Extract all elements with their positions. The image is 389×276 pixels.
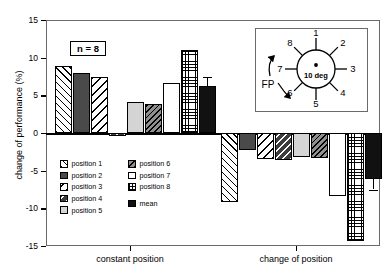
x-tick-mark <box>130 246 131 251</box>
x-tick-label-change-of-position: change of position <box>259 254 332 264</box>
chart-root: 15 10 5 0 -5 -10 -15 change of performan… <box>0 0 389 276</box>
legend-swatch <box>128 172 136 180</box>
legend-label: position 5 <box>72 206 103 215</box>
inset-center-label: 10 deg <box>304 71 328 80</box>
legend-swatch <box>60 172 68 180</box>
inset-circle <box>297 50 335 88</box>
bar-change-of-position-position-7 <box>329 133 346 196</box>
legend-label: position 8 <box>140 182 171 191</box>
legend-column-left: position 1position 2position 3position 4… <box>60 158 102 216</box>
inset-spoke-label-8: 8 <box>287 37 292 48</box>
y-axis-label: change of performance (%) <box>14 40 24 210</box>
bar-constant-position-position-4 <box>109 133 126 136</box>
legend-swatch <box>128 160 136 168</box>
legend-label: position 3 <box>72 182 103 191</box>
inset-spoke-label-3: 3 <box>350 63 355 74</box>
bar-change-of-position-position-5 <box>293 133 310 157</box>
inset-spoke-label-4: 4 <box>340 87 345 98</box>
legend-item-position-6: position 6 <box>128 158 170 170</box>
legend-label: position 4 <box>72 194 103 203</box>
legend-item-mean: mean <box>128 198 170 210</box>
bar-change-of-position-position-6 <box>311 133 328 158</box>
legend-item-position-1: position 1 <box>60 158 102 170</box>
error-bar-stem <box>373 179 374 190</box>
legend-swatch <box>128 183 136 191</box>
legend-label: position 7 <box>140 171 171 180</box>
bar-change-of-position-position-3 <box>257 133 274 159</box>
y-tick-label: -15 <box>26 241 41 251</box>
y-tick-label: 5 <box>33 90 41 100</box>
inset-fixation-dot <box>314 63 318 67</box>
bar-constant-position-position-3 <box>91 77 108 133</box>
legend-swatch <box>60 195 68 203</box>
x-tick-mark <box>296 246 297 251</box>
inset-spoke-label-1: 1 <box>313 29 318 38</box>
bar-constant-position-position-6 <box>145 104 162 133</box>
legend-item-position-2: position 2 <box>60 170 102 182</box>
error-bar-cap <box>369 190 378 191</box>
bar-change-of-position-mean <box>365 133 382 179</box>
legend-item-position-3: position 3 <box>60 181 102 193</box>
bar-constant-position-position-8 <box>181 50 198 133</box>
error-bar-cap <box>203 77 212 78</box>
inset-fp-label: FP <box>262 79 275 90</box>
bar-change-of-position-position-4 <box>275 133 292 160</box>
inset-spoke-label-2: 2 <box>340 37 345 48</box>
legend-item-position-4: position 4 <box>60 193 102 205</box>
legend-swatch <box>60 160 68 168</box>
bar-constant-position-position-2 <box>73 73 90 133</box>
bar-change-of-position-position-1 <box>221 133 238 202</box>
y-tick-label: -10 <box>26 203 41 213</box>
legend-item-position-8: position 8 <box>128 181 170 193</box>
bar-constant-position-position-7 <box>163 83 180 133</box>
y-tick-label: 0 <box>33 128 41 138</box>
inset-spoke-label-7: 7 <box>277 63 282 74</box>
legend-swatch <box>60 206 68 214</box>
bar-change-of-position-position-8 <box>347 133 364 241</box>
inset-spoke-label-5: 5 <box>313 98 318 109</box>
bar-constant-position-position-1 <box>55 66 72 133</box>
bar-change-of-position-position-2 <box>239 133 256 150</box>
y-tick-label: 10 <box>29 53 41 63</box>
bar-constant-position-position-5 <box>127 102 144 133</box>
y-tick-label: -5 <box>30 166 41 176</box>
inset-diagram: 10 deg 1 2 3 4 5 6 7 8 FP <box>255 28 368 112</box>
legend-label: position 1 <box>72 159 103 168</box>
y-tick-label: 15 <box>29 15 41 25</box>
legend-swatch <box>128 200 136 208</box>
legend-label: position 2 <box>72 171 103 180</box>
sample-size-annotation: n = 8 <box>70 41 106 56</box>
inset-svg: 10 deg 1 2 3 4 5 6 7 8 FP <box>256 29 365 109</box>
legend-swatch <box>60 183 68 191</box>
legend-label: position 6 <box>140 159 171 168</box>
legend-label: mean <box>140 199 158 208</box>
y-tick-mark <box>41 246 46 247</box>
legend-item-position-5: position 5 <box>60 204 102 216</box>
error-bar-stem <box>207 77 208 87</box>
legend-item-position-7: position 7 <box>128 170 170 182</box>
legend-column-right: position 6position 7position 8mean <box>128 158 170 209</box>
x-tick-label-constant-position: constant position <box>96 254 164 264</box>
bar-constant-position-mean <box>199 86 216 133</box>
